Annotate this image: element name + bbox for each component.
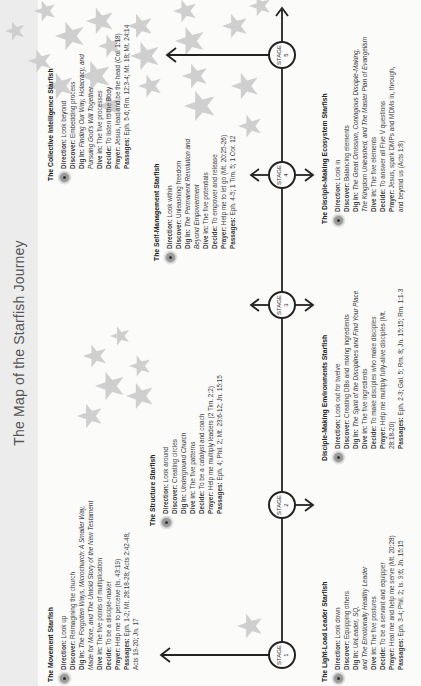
blocks-self-management-discover-0: Discover: — [175, 220, 182, 249]
blocks-structure-prayer-1: Help me multiply leaders (2 Tim. 2:2) — [207, 386, 214, 492]
blocks-structure-passages-0: Passages: — [216, 482, 223, 514]
blocks-movement-dig-in-label: Dig In: — [78, 650, 85, 670]
compass-icon — [333, 452, 344, 463]
blocks-structure-heading: The Structure Starfish — [148, 326, 157, 526]
self-management-starfish-block: The Self-Management Starfish Direction: … — [152, 91, 237, 261]
stages-3-label: STAGE — [276, 165, 282, 185]
blocks-collective-prayer-1: Jesus, lead and be the head (Col. 1:18) — [114, 33, 121, 147]
blocks-self-management-dig-in-1: The Permanent Revolution and — [184, 139, 191, 229]
blocks-environments-passages-1: Eph. 2-3; Gal. 5; Rm. 8; Jn. 15:15; Rm. … — [397, 289, 404, 418]
blocks-ecosystem-dig-in-label: Dig In: — [352, 192, 359, 212]
blocks-self-management-dive-in-1: The five potentials — [202, 172, 209, 226]
stages-4-label: STAGE — [276, 45, 282, 65]
blocks-light-load-dive-in-1: The five postures — [370, 596, 377, 647]
stage-1-node: STAGE 1 — [269, 642, 295, 668]
blocks-collective-heading: The Collective Intelligence Starfish — [46, 0, 55, 181]
blocks-collective-direction-1: Look beyond — [60, 101, 67, 139]
blocks-movement-discover-1: Reimagining the church — [69, 572, 76, 641]
blocks-collective-dig-in-label: Dig In: — [78, 149, 85, 169]
blocks-self-management-discover-1: Unleashing freedom — [175, 161, 182, 220]
blocks-movement-dive-in-0: Dive in: — [96, 647, 103, 670]
blocks-movement-dig-in-1: The Forgotten Ways, Microchurch: A Small… — [78, 506, 85, 650]
blocks-environments-decide-1: To make disciples who make disciples — [370, 317, 377, 426]
blocks-self-management-dive-in-0: Dive in: — [202, 226, 209, 249]
stages-4-number: 5 — [283, 53, 289, 57]
starfish-cluster-stage1-icon — [237, 614, 262, 639]
stages-1-number: 2 — [283, 503, 289, 507]
blocks-environments-prayer-2: 28:18-20) — [388, 422, 395, 449]
blocks-collective-prayer-0: Prayer: — [114, 147, 121, 169]
blocks-environments-prayer-label: Prayer: — [379, 427, 386, 449]
stage-4-node: STAGE 4 — [269, 162, 295, 188]
compass-icon — [333, 215, 344, 226]
blocks-collective-decide-0: Decide: — [105, 146, 112, 169]
blocks-ecosystem-dig-in-1: The Great Omission, Contagious Disciple-… — [352, 49, 359, 193]
blocks-movement-passages-2: Acts 19-20; Jn. 17 — [132, 618, 139, 670]
stages-3-number: 4 — [283, 173, 289, 177]
blocks-structure-direction-0: Direction: — [162, 484, 169, 514]
blocks-light-load-discover-1: Equipping others — [343, 591, 350, 641]
blocks-movement-direction-0: Direction: — [60, 640, 67, 670]
blocks-environments-direction-0: Direction: — [334, 419, 341, 449]
map-page: The Map of the Starfish Journey — [0, 0, 421, 686]
blocks-ecosystem-dive-in-1: The five elements — [370, 137, 377, 189]
blocks-self-management-prayer-1: Help me to let go (Mt. 20:25-26) — [220, 135, 227, 227]
stages-1-label: STAGE — [276, 495, 282, 515]
blocks-ecosystem-prayer-2: and beyond us (Acts 1:8) — [397, 141, 404, 212]
blocks-structure-dive-in-0: Dive in: — [189, 491, 196, 514]
blocks-ecosystem-heading: The Disciple-Making Ecosystem Starfish — [320, 0, 329, 224]
blocks-ecosystem-prayer-1: Jesus, spark DMPs and MDMs in, through, — [388, 67, 395, 190]
blocks-collective-dive-in-1: The five processes — [96, 91, 103, 146]
blocks-environments-prayer-1: Help me multiply fully-alive disciples (… — [379, 310, 386, 426]
movement-starfish-block: The Movement Starfish Direction: Look up… — [46, 392, 140, 682]
blocks-structure-discover-0: Discover: — [171, 485, 178, 514]
stages-2-label: STAGE — [276, 295, 282, 315]
blocks-structure-prayer-0: Prayer: — [207, 492, 214, 514]
blocks-ecosystem-prayer-label: Prayer: — [388, 190, 395, 212]
blocks-self-management-decide-1: To empower and release — [211, 154, 218, 226]
blocks-structure-discover-1: Creating circles — [171, 439, 178, 485]
stage-3-node: STAGE 3 — [269, 292, 295, 318]
disciple-making-environments-starfish-block: Disciple-Making Environments Starfish Di… — [320, 221, 405, 461]
blocks-collective-direction-0: Direction: — [60, 139, 67, 169]
blocks-light-load-dig-in-0: Dig In: — [352, 650, 359, 670]
blocks-collective-dig-in-1: Finding Our Way, Holacracy, and — [78, 54, 85, 149]
structure-starfish-block: The Structure Starfish Direction: Look a… — [148, 326, 224, 526]
blocks-light-load-passages-0: Passages: — [397, 638, 404, 670]
compass-icon — [161, 517, 172, 528]
blocks-movement-heading: The Movement Starfish — [46, 392, 55, 682]
blocks-ecosystem-direction-1: Look in — [334, 160, 341, 182]
blocks-light-load-decide-0: Decide: — [379, 647, 386, 670]
blocks-light-load-direction-0: Direction: — [334, 640, 341, 670]
compass-icon — [333, 673, 344, 684]
stages-0-number: 1 — [283, 653, 289, 657]
stages-0-label: STAGE — [276, 645, 282, 665]
stage-2-node: STAGE 2 — [269, 492, 295, 518]
blocks-environments-passages-0: Passages: — [397, 417, 404, 449]
blocks-self-management-prayer-0: Prayer: — [220, 227, 227, 249]
blocks-collective-dive-in-0: Dive in: — [96, 146, 103, 169]
blocks-self-management-dig-in-2: Beyond Empowerment — [193, 184, 200, 249]
blocks-collective-dig-in-2: Pursuing God's Will Together — [87, 87, 94, 169]
blocks-environments-dig-in-1: The Spirit of the Disciplines and Find Y… — [352, 291, 359, 429]
compass-icon — [59, 673, 70, 684]
blocks-self-management-heading: The Self-Management Starfish — [152, 91, 161, 261]
compass-icon — [165, 252, 176, 263]
blocks-movement-prayer-1: Help me to perceive (Is. 43:19) — [114, 559, 121, 648]
blocks-structure-dig-in-1: Underground Church — [180, 433, 187, 494]
blocks-environments-discover-1: Creating DBs and mixing ingredients — [343, 314, 350, 420]
stages-2-number: 3 — [283, 303, 289, 307]
blocks-collective-decide-1: To listen to the Body — [105, 87, 112, 146]
blocks-light-load-prayer-1: Heal me and help me serve (Mt. 20:28) — [388, 535, 395, 648]
compass-icon — [59, 172, 70, 183]
blocks-self-management-direction-0: Direction: — [166, 219, 173, 249]
blocks-light-load-heading: The Light-Load Leader Starfish — [320, 532, 329, 682]
blocks-environments-dig-in-label: Dig In: — [352, 429, 359, 449]
blocks-environments-decide-0: Decide: — [370, 426, 377, 449]
blocks-ecosystem-direction-0: Direction: — [334, 182, 341, 212]
blocks-structure-dig-in-0: Dig In: — [180, 494, 187, 514]
blocks-movement-dive-in-1: The five points of multiplication — [96, 558, 103, 647]
blocks-self-management-direction-1: Look within — [166, 185, 173, 219]
blocks-ecosystem-dig-in-2: The Kingdom Unleashed, and The Master Pl… — [361, 37, 368, 212]
blocks-light-load-prayer-0: Prayer: — [388, 648, 395, 670]
